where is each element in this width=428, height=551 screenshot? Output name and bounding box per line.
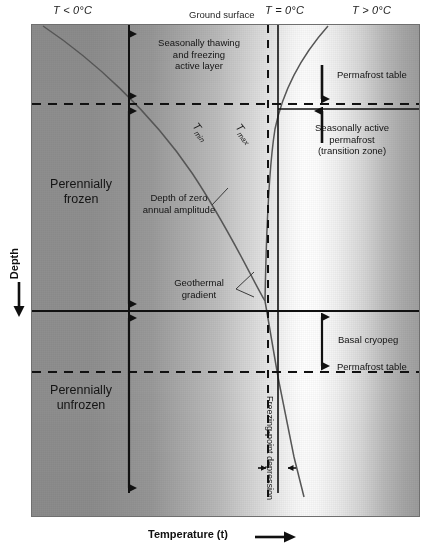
permafrost-table-upper-label: Permafrost table xyxy=(337,69,407,81)
permafrost-table-lower-label: Permafrost table xyxy=(337,361,407,373)
permafrost-temperature-diagram: T < 0°C Ground surface T = 0°C T > 0°C xyxy=(0,0,428,551)
temperature-axis-arrow-icon xyxy=(255,530,297,544)
geothermal-leader-line xyxy=(236,272,254,289)
geothermal-leader-line-2 xyxy=(236,289,254,297)
diagram-line-overlay xyxy=(32,25,420,517)
basal-cryopeg-label: Basal cryopeg xyxy=(338,334,398,346)
header-temp-greater-than-zero: T > 0°C xyxy=(352,4,391,16)
active-layer-label: Seasonally thawing and freezing active l… xyxy=(136,37,262,72)
ground-surface-label: Ground surface xyxy=(189,9,254,20)
header-temp-equal-zero: T = 0°C xyxy=(265,4,304,16)
geothermal-gradient-label: Geothermal gradient xyxy=(163,277,235,300)
seasonally-active-permafrost-label: Seasonally active permafrost (transition… xyxy=(284,122,420,157)
perennially-unfrozen-label: Perennially unfrozen xyxy=(36,383,126,413)
header-temp-less-than-zero: T < 0°C xyxy=(53,4,92,16)
freezing-point-depression-label: Freezing-point depression xyxy=(265,396,275,500)
depth-axis-label: Depth xyxy=(8,248,20,279)
depth-zero-annual-amplitude-label: Depth of zero annual amplitude xyxy=(142,192,216,215)
perennially-frozen-label: Perennially frozen xyxy=(36,177,126,207)
tmax-curve xyxy=(265,26,328,301)
plot-area: Seasonally thawing and freezing active l… xyxy=(31,24,420,517)
depth-axis-arrow-icon xyxy=(11,282,27,318)
temperature-axis-label: Temperature (t) xyxy=(148,528,228,540)
